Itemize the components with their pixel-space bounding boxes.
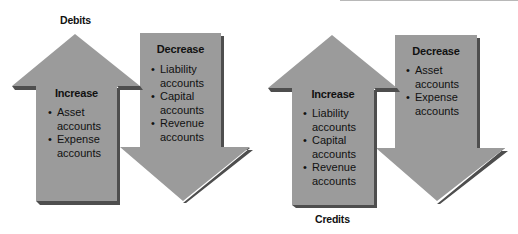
credits-decrease-list: Asset accounts Expense accounts [406,64,476,118]
credits-title: Credits [315,213,350,225]
list-item: Asset accounts [406,64,476,91]
list-item: Expense accounts [406,91,476,118]
list-item: Revenue accounts [151,117,221,144]
debits-increase-arrow-shadow-right [117,86,143,90]
list-item: Capital accounts [151,90,221,117]
list-item: Capital accounts [303,134,373,161]
list-item: Revenue accounts [303,161,373,188]
credits-decrease-arrow [376,35,505,201]
credits-increase-arrow-shadow-right [374,88,400,92]
list-item: Expense accounts [48,133,118,160]
debits-increase-list: Asset accounts Expense accounts [48,106,118,160]
credits-decrease-heading: Decrease [395,45,477,57]
debits-increase-heading: Increase [36,87,117,99]
debits-decrease-list: Liability accounts Capital accounts Reve… [151,63,221,144]
credits-increase-heading: Increase [292,88,374,100]
debits-decrease-heading: Decrease [140,43,221,55]
list-item: Asset accounts [48,106,118,133]
credits-increase-list: Liability accounts Capital accounts Reve… [303,107,373,188]
list-item: Liability accounts [151,63,221,90]
debits-title: Debits [60,14,91,26]
list-item: Liability accounts [303,107,373,134]
